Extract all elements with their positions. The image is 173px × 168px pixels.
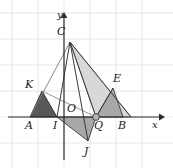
triangle-AIK bbox=[30, 91, 57, 117]
point-label-I: I bbox=[53, 120, 57, 131]
x-axis-label: x bbox=[152, 120, 158, 130]
point-label-C: C bbox=[57, 26, 65, 37]
point-label-E: E bbox=[113, 73, 121, 84]
geometry-figure: C K E A I O Q B J y x bbox=[0, 0, 173, 168]
y-axis-label: y bbox=[57, 10, 63, 20]
point-label-J: J bbox=[84, 146, 88, 157]
point-label-Q: Q bbox=[94, 120, 103, 131]
x-axis-arrow-icon bbox=[159, 114, 165, 121]
point-label-B: B bbox=[118, 120, 126, 131]
point-label-K: K bbox=[25, 79, 33, 90]
point-label-O: O bbox=[67, 103, 76, 114]
point-label-A: A bbox=[25, 120, 33, 131]
